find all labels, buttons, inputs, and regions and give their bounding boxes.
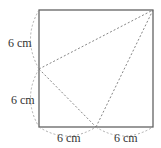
square — [39, 10, 153, 127]
line-bottom-mid-to-top-right — [96, 10, 153, 127]
dimension-arc-left-top — [31, 10, 40, 69]
line-left-mid-to-top-right — [39, 10, 153, 69]
label-left-top: 6 cm — [8, 36, 32, 50]
geometry-diagram: 6 cm 6 cm 6 cm 6 cm — [0, 0, 161, 148]
line-left-mid-to-bottom-mid — [39, 69, 96, 127]
label-left-bottom: 6 cm — [11, 93, 35, 107]
label-bottom-left: 6 cm — [57, 131, 81, 145]
label-bottom-right: 6 cm — [114, 131, 138, 145]
